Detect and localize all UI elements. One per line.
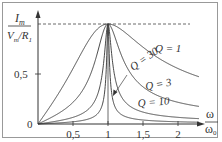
ylabel-num: Im bbox=[14, 11, 25, 27]
x-axis-arrow-icon bbox=[197, 122, 205, 127]
curve-q-3 bbox=[38, 24, 199, 124]
x-tick-label: 2 bbox=[175, 128, 181, 140]
xlabel-num: ω bbox=[206, 107, 214, 121]
curve-q-30 bbox=[38, 24, 199, 124]
series-label: Q = 1 bbox=[155, 42, 181, 54]
series-label: Q = 10 bbox=[137, 94, 170, 109]
series-labels: Q = 1Q = 30Q = 3Q = 10 bbox=[127, 42, 181, 109]
series-label: Q = 30 bbox=[127, 44, 160, 72]
resonance-curves bbox=[38, 24, 199, 124]
resonance-chart: 0,511,52 0,5 0 Im Vm/R1 ω ω0 Q = 1Q = 30… bbox=[0, 0, 222, 142]
x-tick-label: 1,5 bbox=[136, 128, 150, 140]
y-axis-arrow-icon bbox=[36, 10, 41, 18]
curve-q-1 bbox=[38, 24, 199, 124]
series-label: Q = 3 bbox=[144, 75, 173, 91]
origin-label: 0 bbox=[27, 118, 33, 130]
y-tick-label: 0,5 bbox=[14, 68, 28, 80]
curve-q-10 bbox=[38, 24, 199, 124]
xlabel-den: ω0 bbox=[205, 122, 217, 137]
x-tick-label: 1 bbox=[105, 128, 111, 140]
x-tick-label: 0,5 bbox=[66, 128, 80, 140]
ylabel-den: Vm/R1 bbox=[7, 29, 32, 44]
